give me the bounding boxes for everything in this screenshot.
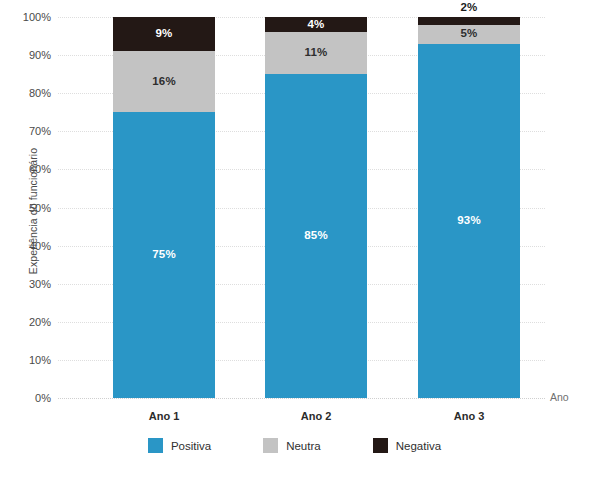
bar-value-label: 5%	[460, 28, 477, 40]
bar-group-3[interactable]: 2%5%93%	[418, 17, 520, 398]
x-axis-category-label: Ano 2	[265, 410, 367, 422]
bar-value-label: 85%	[304, 230, 328, 242]
bar-value-label: 11%	[305, 47, 328, 59]
bar-stack: 4%11%85%	[265, 17, 367, 398]
legend-swatch-icon	[148, 438, 163, 453]
bar-value-label: 93%	[457, 215, 481, 227]
x-axis-category-label: Ano 3	[418, 410, 520, 422]
y-axis-tick-label: 40%	[29, 240, 51, 252]
legend-swatch-icon	[263, 438, 278, 453]
bar-value-label: 4%	[307, 19, 324, 31]
bar-segment-positiva[interactable]: 85%	[265, 74, 367, 398]
bar-segment-negativa[interactable]: 4%	[265, 17, 367, 32]
legend-item-negativa[interactable]: Negativa	[373, 438, 441, 453]
legend-swatch-icon	[373, 438, 388, 453]
bar-segment-neutra[interactable]: 5%	[418, 25, 520, 44]
bar-stack: 9%16%75%	[113, 17, 215, 398]
bar-group-1[interactable]: 9%16%75%	[113, 17, 215, 398]
bar-value-label: 75%	[152, 249, 176, 261]
y-axis-tick-label: 30%	[29, 278, 51, 290]
y-axis-tick-label: 90%	[29, 49, 51, 61]
stacked-bar-chart: Experiência do funcionário 0%10%20%30%40…	[0, 0, 589, 482]
x-axis-category-label: Ano 1	[113, 410, 215, 422]
gridline	[58, 398, 545, 399]
y-axis-tick-label: 0%	[35, 392, 51, 404]
y-axis-tick-label: 10%	[29, 354, 51, 366]
legend-label: Negativa	[396, 440, 441, 452]
bar-segment-positiva[interactable]: 93%	[418, 44, 520, 398]
bar-value-label: 16%	[152, 76, 176, 88]
y-axis-tick-label: 20%	[29, 316, 51, 328]
bar-group-2[interactable]: 4%11%85%	[265, 17, 367, 398]
y-axis-tick-label: 100%	[23, 11, 51, 23]
legend-item-positiva[interactable]: Positiva	[148, 438, 211, 453]
legend-label: Neutra	[286, 440, 321, 452]
bar-segment-negativa[interactable]: 2%	[418, 17, 520, 25]
y-axis-tick-label: 60%	[29, 163, 51, 175]
bar-value-label: 2%	[460, 2, 477, 14]
legend-label: Positiva	[171, 440, 211, 452]
chart-legend: PositivaNeutraNegativa	[0, 438, 589, 453]
bar-segment-negativa[interactable]: 9%	[113, 17, 215, 51]
y-axis-tick-label: 80%	[29, 87, 51, 99]
bar-segment-neutra[interactable]: 16%	[113, 51, 215, 112]
x-axis-title: Ano	[550, 391, 569, 403]
plot-area: 0%10%20%30%40%50%60%70%80%90%100%9%16%75…	[58, 17, 545, 398]
bar-stack: 2%5%93%	[418, 17, 520, 398]
bar-segment-positiva[interactable]: 75%	[113, 112, 215, 398]
y-axis-tick-label: 70%	[29, 125, 51, 137]
legend-item-neutra[interactable]: Neutra	[263, 438, 321, 453]
bar-value-label: 9%	[155, 28, 172, 40]
bar-segment-neutra[interactable]: 11%	[265, 32, 367, 74]
y-axis-tick-label: 50%	[29, 202, 51, 214]
